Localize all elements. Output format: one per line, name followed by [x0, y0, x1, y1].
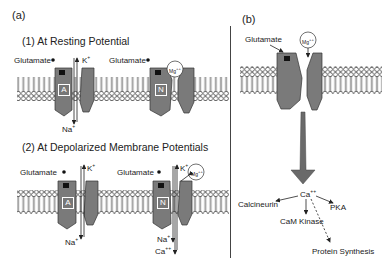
cam-kinase-label: CaM Kinase: [280, 217, 324, 226]
k-label-a1: K+: [82, 54, 90, 65]
k-label-a2-nmda: K+: [180, 162, 188, 173]
glutamate-label-a2-ampa: Glutamate: [20, 168, 57, 177]
na-label-a1: Na+: [62, 123, 75, 134]
mg-label-a1: Mg++: [169, 66, 181, 74]
nmda-letter-a2: N: [157, 197, 169, 209]
mg-label-a2: Mg++: [191, 169, 203, 177]
arrow-to-pka: [316, 196, 333, 203]
ampa-letter-a2: A: [62, 197, 74, 209]
glutamate-pointer-b: [270, 45, 283, 52]
section2-title: (2) At Depolarized Membrane Potentials: [22, 141, 208, 153]
ca-label-a2-nmda: Ca++: [155, 245, 171, 256]
membrane-a2: [17, 190, 229, 214]
calcium-influx-arrow: [291, 112, 315, 184]
panel-a-label: (a): [12, 9, 25, 21]
glutamate-label-a1-nmda: Glutamate: [109, 56, 146, 65]
calcineurin-label: Calcineurin: [238, 200, 278, 209]
membrane-a1: [17, 77, 229, 101]
glutamate-dot-a2: [62, 170, 66, 174]
na-label-a2-nmda: Na+: [157, 233, 170, 244]
pka-label: PKA: [330, 203, 346, 212]
calcium-label-b: Ca++: [300, 188, 316, 199]
glutamate-dot-a1: [51, 58, 55, 62]
k-label-a2: K+: [87, 162, 95, 173]
glutamate-dot-a1-nmda: [146, 58, 150, 62]
glutamate-label-a2-nmda: Glutamate: [117, 168, 154, 177]
glutamate-label-b: Glutamate: [245, 35, 282, 44]
na-label-a2: Na+: [65, 236, 78, 247]
mg-label-b: Mg++: [302, 37, 314, 45]
nmda-letter-a1: N: [155, 84, 167, 96]
section1-title: (1) At Resting Potential: [22, 35, 129, 47]
panel-b-label: (b): [242, 13, 255, 25]
ampa-letter-a1: A: [58, 84, 70, 96]
protein-synthesis-label: Protein Synthesis: [312, 247, 374, 256]
mg-expel-arrow: [181, 175, 189, 181]
glutamate-dot-a2-nmda: [157, 170, 161, 174]
nmda-receptor-b: [277, 53, 322, 110]
glutamate-label-a1-ampa: Glutamate: [14, 56, 51, 65]
arrow-to-calcineurin: [276, 196, 298, 201]
